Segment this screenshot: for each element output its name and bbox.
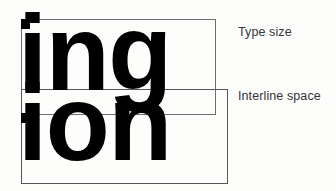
caption-interline-space: Interline space: [238, 89, 321, 103]
i-dot-square-upper-icon: [21, 19, 30, 29]
typography-measurement-diagram: ing ion Type size Interline space: [0, 0, 336, 191]
specimen-text-ion: ion: [18, 69, 171, 177]
caption-type-size: Type size: [238, 25, 292, 39]
i-dot-square-lower-icon: [21, 113, 30, 123]
